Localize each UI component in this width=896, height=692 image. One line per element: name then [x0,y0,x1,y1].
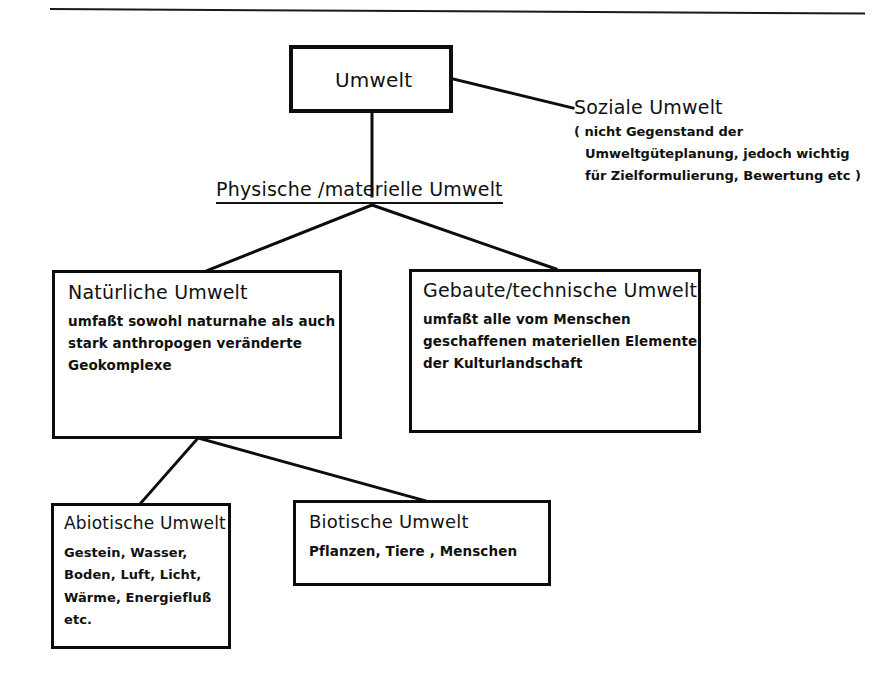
body-line: Boden, Luft, Licht, [64,564,211,586]
node-gebaute-technische-umwelt[interactable]: Gebaute/technische Umwelt umfaßt alle vo… [409,269,701,433]
body-line: etc. [64,609,211,631]
node-biotische-umwelt-body: Pflanzen, Tiere , Menschen [309,541,517,563]
body-line: stark anthropogen veränderte [68,333,335,355]
node-gebaute-technische-umwelt-title: Gebaute/technische Umwelt [423,280,697,302]
body-line: Pflanzen, Tiere , Menschen [309,541,517,563]
connector-physische-gebaute [372,205,556,269]
note-line: Umweltgüteplanung, jedoch wichtig [574,143,894,165]
node-natuerliche-umwelt[interactable]: Natürliche Umwelt umfaßt sowohl naturnah… [52,270,342,439]
node-abiotische-umwelt[interactable]: Abiotische Umwelt Gestein, Wasser, Boden… [51,503,231,649]
connector-natuerliche-biotische [198,438,426,501]
node-physische-materielle-umwelt[interactable]: Physische /materielle Umwelt [216,178,503,204]
diagram-canvas: Umwelt Soziale Umwelt ( nicht Gegenstand… [0,0,896,692]
connector-physische-natuerliche [206,205,372,271]
connector-umwelt-soziale [453,79,573,108]
body-line: Gestein, Wasser, [64,542,211,564]
connector-natuerliche-abiotische [140,438,198,504]
node-soziale-umwelt-note: ( nicht Gegenstand der Umweltgüteplanung… [574,121,894,186]
body-line: umfaßt alle vom Menschen [423,309,697,331]
body-line: der Kulturlandschaft [423,353,697,375]
node-natuerliche-umwelt-title: Natürliche Umwelt [68,282,248,304]
note-line: für Zielformulierung, Bewertung etc ) [574,165,894,187]
body-line: geschaffenen materiellen Elemente [423,331,697,353]
body-line: Geokomplexe [68,355,335,377]
node-gebaute-technische-umwelt-body: umfaßt alle vom Menschen geschaffenen ma… [423,309,697,375]
body-line: umfaßt sowohl naturnahe als auch [68,311,335,333]
node-umwelt[interactable]: Umwelt [289,45,453,113]
node-soziale-umwelt-title: Soziale Umwelt [574,96,894,118]
body-line: Wärme, Energiefluß [64,587,211,609]
page-top-rule [50,8,865,15]
node-abiotische-umwelt-body: Gestein, Wasser, Boden, Luft, Licht, Wär… [64,542,211,631]
note-line: ( nicht Gegenstand der [574,124,743,139]
node-natuerliche-umwelt-body: umfaßt sowohl naturnahe als auch stark a… [68,311,335,377]
node-soziale-umwelt[interactable]: Soziale Umwelt ( nicht Gegenstand der Um… [574,96,894,186]
node-abiotische-umwelt-title: Abiotische Umwelt [64,514,226,534]
node-umwelt-title: Umwelt [335,69,412,92]
node-biotische-umwelt[interactable]: Biotische Umwelt Pflanzen, Tiere , Mensc… [293,500,551,586]
node-biotische-umwelt-title: Biotische Umwelt [309,512,469,533]
